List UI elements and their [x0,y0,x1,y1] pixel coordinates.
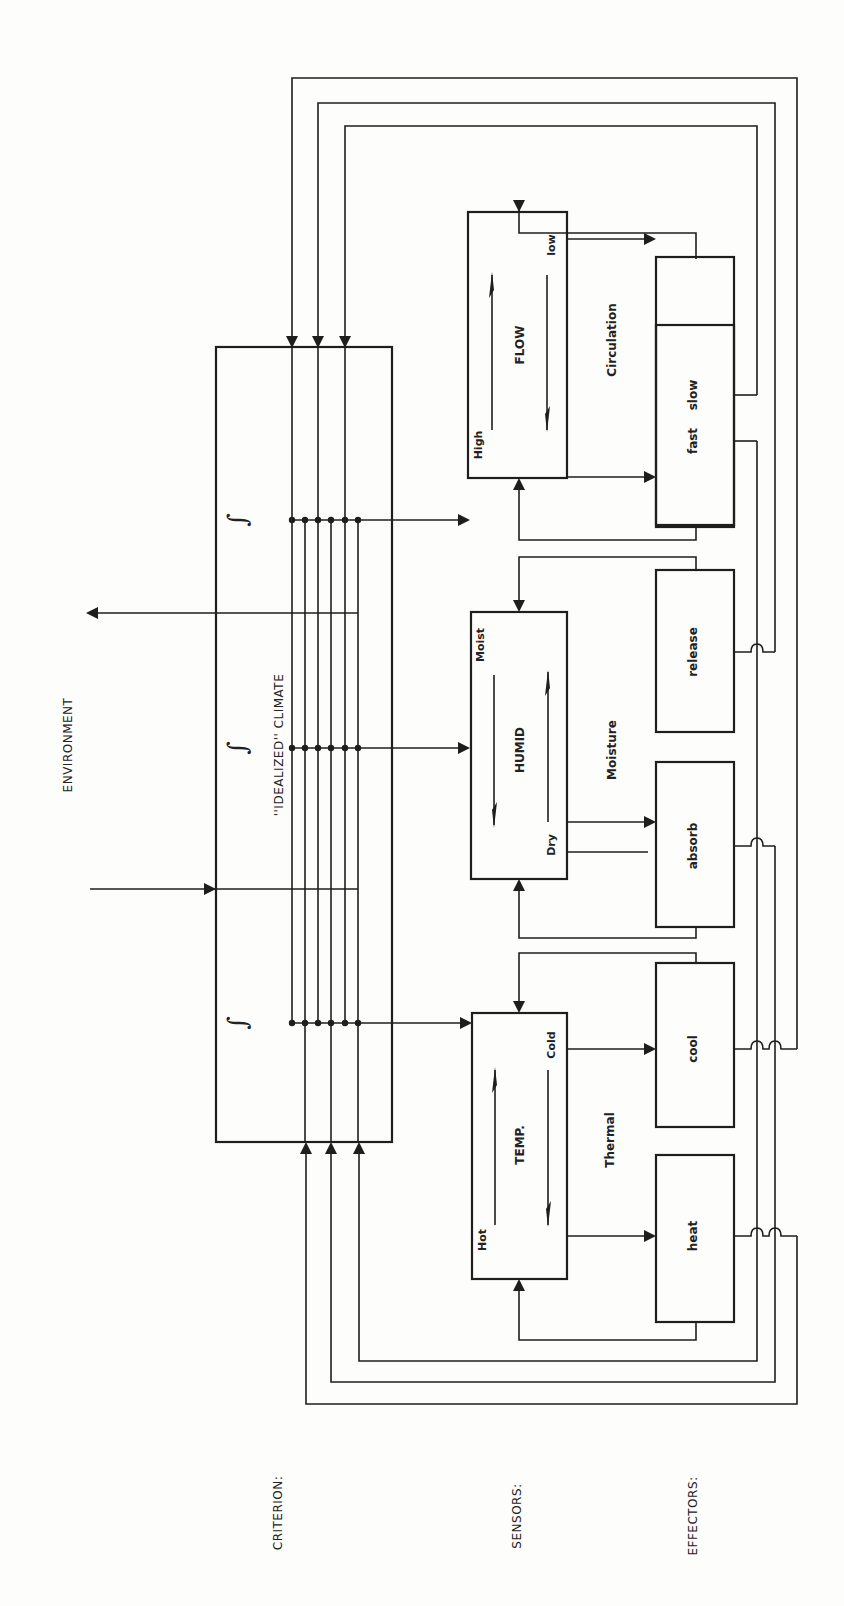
effector-fast: fast [656,325,734,525]
effector-layer: fast release absorb cool heat [0,0,844,1606]
row-label-criterion: CRITERION: [271,1476,285,1551]
effector-output-wires [734,395,797,1236]
svg-text:release: release [686,627,700,677]
effector-cool: cool [656,963,734,1127]
effector-heat: heat [656,1155,734,1322]
svg-text:absorb: absorb [686,822,700,869]
row-label-effectors: EFFECTORS: [686,1476,700,1555]
effector-absorb: absorb [656,762,734,927]
local-feedback [513,200,696,1340]
row-label-sensors: SENSORS: [510,1483,524,1548]
svg-text:heat: heat [686,1220,700,1251]
svg-text:fast: fast [686,428,700,454]
effector-release: release [656,570,734,732]
svg-text:cool: cool [686,1035,700,1063]
